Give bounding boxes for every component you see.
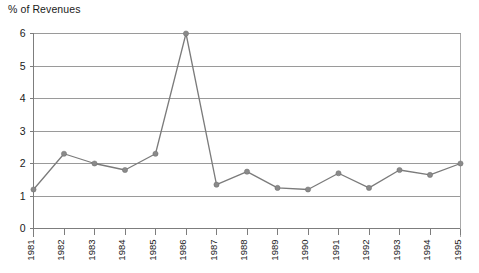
data-point-1984 [122,167,127,172]
x-tick-label-1990: 1990 [299,240,310,261]
x-tick-label-1994: 1994 [421,240,432,261]
data-series-revenues [34,34,461,190]
data-point-1992 [366,185,371,190]
series-polyline [34,34,461,190]
plot-frame [34,34,461,237]
y-tick-label-4: 4 [20,92,26,104]
x-tick-label-1983: 1983 [86,240,97,261]
data-point-1981 [31,187,36,192]
x-tick-label-1986: 1986 [177,240,188,261]
gridlines-group [34,34,461,229]
x-tick-label-1982: 1982 [55,240,66,261]
x-tick-label-1987: 1987 [208,240,219,261]
y-tick-label-1: 1 [20,190,26,202]
data-point-1990 [305,187,310,192]
x-tick-label-1992: 1992 [360,240,371,261]
data-point-1983 [92,161,97,166]
x-tick-label-1985: 1985 [147,240,158,261]
x-axis-ticks: 1981198219831984198519861987198819891990… [25,229,463,261]
x-tick-label-1988: 1988 [238,240,249,261]
data-point-1987 [214,182,219,187]
data-point-1989 [275,185,280,190]
x-tick-label-1993: 1993 [391,240,402,261]
data-point-1988 [244,169,249,174]
y-tick-label-0: 0 [20,222,26,234]
chart-container: % of Revenues 0123456 198119821983198419… [0,0,479,273]
x-tick-label-1991: 1991 [330,240,341,261]
y-tick-label-5: 5 [20,60,26,72]
x-tick-label-1981: 1981 [25,240,36,261]
data-point-1986 [183,31,188,36]
data-point-1985 [153,151,158,156]
x-tick-label-1989: 1989 [269,240,280,261]
data-point-1982 [61,151,66,156]
data-point-1995 [458,161,463,166]
x-tick-label-1984: 1984 [116,240,127,261]
data-point-1993 [397,167,402,172]
x-tick-label-1995: 1995 [452,240,463,261]
data-point-markers [31,31,463,192]
y-tick-label-2: 2 [20,157,26,169]
y-tick-label-3: 3 [20,125,26,137]
line-chart-plot: 0123456 19811982198319841985198619871988… [0,0,479,273]
y-tick-label-6: 6 [20,27,26,39]
y-axis-ticks: 0123456 [20,27,34,234]
data-point-1991 [336,171,341,176]
data-point-1994 [427,172,432,177]
